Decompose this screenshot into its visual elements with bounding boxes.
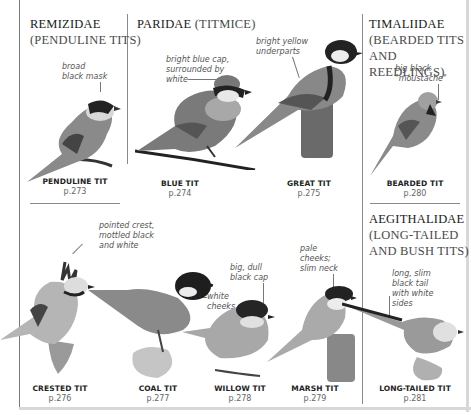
note-line: black cap (230, 273, 268, 283)
bird-caption-great-tit: GREAT TIT p.275 (264, 179, 354, 198)
bird-caption-crested-tit: CRESTED TIT p.276 (15, 384, 105, 403)
note-line: mottled black (99, 231, 154, 241)
bird-caption-blue-tit: BLUE TIT p.274 (135, 179, 225, 198)
bird-name: CRESTED TIT (15, 384, 105, 393)
family-name: REMIZIDAE (30, 16, 141, 32)
divider-remizidae-bottom (30, 203, 120, 204)
page-reference: p.274 (135, 189, 225, 198)
family-heading-remizidae: REMIZIDAE (PENDULINE TITS) (30, 16, 141, 48)
note-line: slim neck (300, 264, 338, 274)
divider-timaliidae-bottom (370, 203, 460, 204)
page-reference: p.279 (270, 394, 360, 403)
note-willow-tit: big, dull black cap (230, 263, 268, 283)
willow-tit-illustration (180, 300, 275, 380)
note-penduline-tit: broad black mask (62, 62, 107, 82)
bird-caption-penduline-tit: PENDULINE TIT p.273 (30, 177, 120, 196)
family-heading-paridae: PARIDAE (TITMICE) (137, 16, 256, 32)
note-marsh-tit: pale cheeks; slim neck (300, 244, 338, 274)
bird-name: GREAT TIT (264, 179, 354, 188)
bird-name: COAL TIT (113, 384, 203, 393)
note-line: big black (395, 64, 447, 74)
bird-caption-long-tailed-tit: LONG-TAILED TIT p.281 (370, 384, 460, 403)
page-reference: p.281 (370, 394, 460, 403)
note-line: cheeks; (300, 254, 338, 264)
note-crested-tit: pointed crest, mottled black and white (99, 221, 154, 251)
great-tit-illustration (233, 38, 363, 158)
page-reference: p.275 (264, 189, 354, 198)
bird-caption-bearded-tit: BEARDED TIT p.280 (370, 179, 460, 198)
page-reference: p.277 (113, 394, 203, 403)
family-common-name-line1: (LONG-TAILED (369, 227, 469, 243)
page-reference: p.276 (15, 394, 105, 403)
bird-name: BLUE TIT (135, 179, 225, 188)
note-line: pale (300, 244, 338, 254)
family-common-name-line2: AND BUSH TITS) (369, 243, 469, 259)
crested-tit-illustration (0, 252, 95, 374)
bearded-tit-illustration (368, 86, 443, 178)
family-name: AEGITHALIDAE (369, 211, 469, 227)
page-reference: p.273 (30, 187, 120, 196)
page-shadow-bottom (19, 407, 471, 410)
note-line: and white (99, 241, 154, 251)
family-common-name-line1: (BEARDED TITS (369, 32, 471, 48)
bird-name: MARSH TIT (270, 384, 360, 393)
note-line: broad (62, 62, 107, 72)
family-name: PARIDAE (137, 17, 191, 31)
bird-caption-coal-tit: COAL TIT p.277 (113, 384, 203, 403)
note-line: black mask (62, 72, 107, 82)
note-line: with white (392, 289, 433, 299)
bird-name: PENDULINE TIT (30, 177, 120, 186)
family-heading-aegithalidae: AEGITHALIDAE (LONG-TAILED AND BUSH TITS) (369, 211, 469, 259)
bird-name: BEARDED TIT (370, 179, 460, 188)
note-bearded-tit: big black "moustache" (395, 64, 447, 84)
page-reference: p.280 (370, 189, 460, 198)
note-line: black tail (392, 279, 433, 289)
penduline-tit-illustration (22, 84, 122, 184)
family-common-name: (TITMICE) (195, 17, 256, 31)
long-tailed-tit-illustration (342, 302, 467, 382)
bird-caption-marsh-tit: MARSH TIT p.279 (270, 384, 360, 403)
note-line: long, slim (392, 269, 433, 279)
note-line: big, dull (230, 263, 268, 273)
family-common-name: (PENDULINE TITS) (30, 32, 141, 48)
note-line: "moustache" (395, 74, 447, 84)
bird-name: LONG-TAILED TIT (370, 384, 460, 393)
family-name: TIMALIIDAE (369, 16, 471, 32)
note-line: pointed crest, (99, 221, 154, 231)
